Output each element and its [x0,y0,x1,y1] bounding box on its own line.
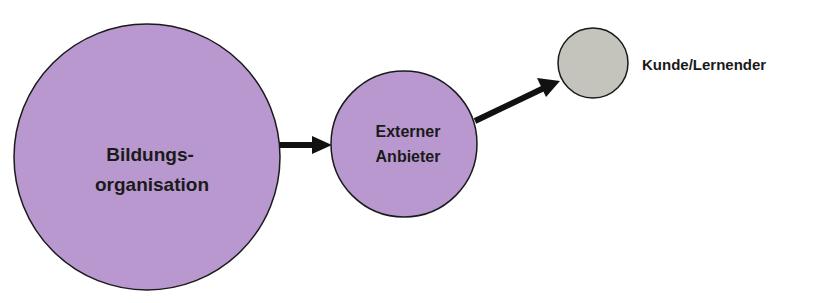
arrow-extern-to-kunde [475,78,560,121]
node-label-line-2: Anbieter [376,148,441,165]
node-label: Kunde/Lernender [642,56,766,73]
circle-shape [331,71,477,217]
node-externer-anbieter: Externer Anbieter [331,71,477,217]
node-label-line-1: Externer [376,123,441,140]
circle-shape [558,28,628,98]
node-bildungsorganisation: Bildungs- organisation [14,24,280,290]
node-label-line-2: organisation [95,174,209,195]
node-label-line-1: Bildungs- [106,144,194,165]
flow-diagram: Bildungs- organisation Externer Anbieter… [0,0,817,303]
node-kunde-lernender: Kunde/Lernender [558,28,766,98]
arrow-bildung-to-extern [279,136,332,154]
